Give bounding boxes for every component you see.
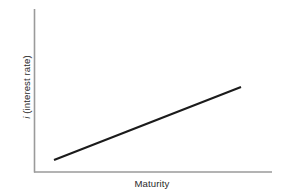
plot-area xyxy=(0,0,286,196)
yield-curve-line xyxy=(54,87,241,160)
x-axis-label: Maturity xyxy=(0,178,286,189)
y-axis-label-symbol: i xyxy=(21,117,32,119)
y-axis-label-text: (interest rate) xyxy=(21,55,32,116)
yield-curve-figure: i (interest rate) Maturity xyxy=(0,0,286,196)
y-axis-label: i (interest rate) xyxy=(21,55,32,119)
